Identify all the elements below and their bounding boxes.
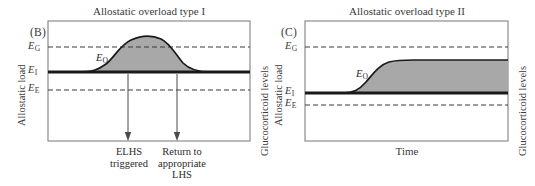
panel-b: (B) Allostatic overload type I Allostati… — [0, 0, 268, 186]
panel-b-arrow-elhs — [125, 74, 131, 141]
panel-c-x-axis-label: Time — [355, 145, 459, 157]
panel-b-arrow-return — [174, 74, 180, 141]
panel-b-curve-fill — [48, 36, 250, 72]
panel-c-curve-fill — [305, 60, 508, 93]
panel-c-plot — [267, 0, 535, 186]
figure-allostatic-overload: (B) Allostatic overload type I Allostati… — [0, 0, 535, 186]
panel-b-annotation-return: Return to appropriate LHS — [146, 146, 218, 181]
panel-c: (C) Allostatic overload type II Allostat… — [267, 0, 535, 186]
